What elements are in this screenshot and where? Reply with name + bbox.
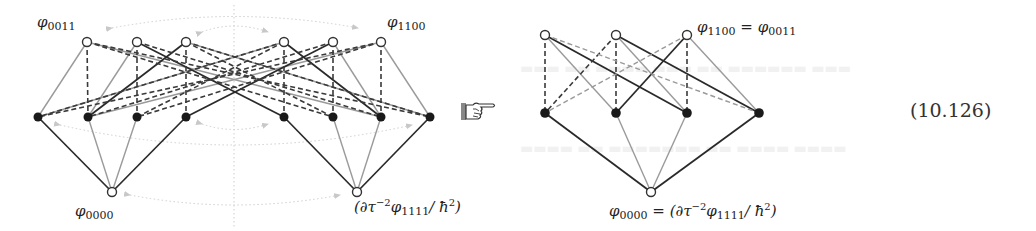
label-phi-0000-equals-phi-1111: φ0000 = (∂τ−2φ1111/ ħ2) [609,202,777,221]
dashed-edges-gray [545,35,759,113]
right-diagram [540,31,764,197]
node-open [329,38,338,47]
node-open [83,38,92,47]
node-open [182,38,191,47]
node-open [353,188,362,197]
label-phi-1111: (∂τ−2φ1111/ ħ2) [354,198,461,217]
node-open [377,38,386,47]
node-open [280,38,289,47]
label-phi-0000: φ0000 [75,204,114,221]
node-open [108,188,117,197]
equation-number: (10.126) [910,99,991,121]
label-phi-1100: φ1100 [387,15,426,32]
diagram-figure: ▬▬▬ ▬▬ ▬▬▬▬ ▬▬▬ ▬▬ ▬▬▬▬▬▬ ▬▬▬ ▬▬▬▬ ▬▬ ▬▬… [0,0,1036,231]
gray-edges [545,35,759,192]
label-phi-1100-equals-phi-0011: φ1100 = φ0011 [697,20,796,37]
label-phi-0011: φ0011 [37,15,76,32]
diagram-svg [0,0,1036,231]
left-diagram [34,5,435,228]
pointing-hand-icon [461,103,495,120]
filled-nodes [540,108,764,118]
node-open [133,38,142,47]
dark-edges [545,35,759,192]
